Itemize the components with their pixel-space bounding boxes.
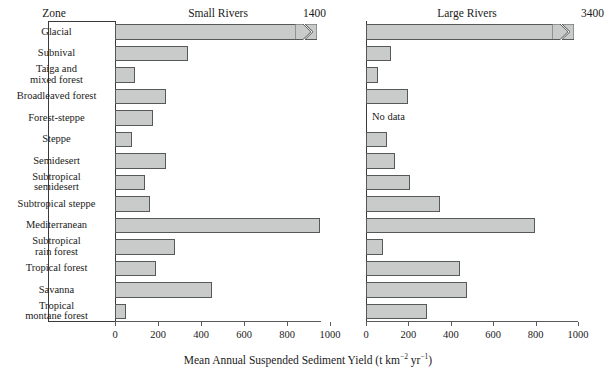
bar-13 [115, 282, 212, 298]
x-tick [408, 322, 409, 326]
zone-label-5: Forest-steppe [0, 107, 113, 129]
bar-10 [366, 218, 535, 234]
bar-4 [366, 89, 408, 105]
zone-label-1: Glacial [0, 21, 113, 43]
x-tick [244, 322, 245, 326]
zone-label-line: Semidesert [33, 156, 80, 167]
bar-segment [366, 24, 552, 40]
x-tick-label: 1000 [558, 329, 598, 340]
panel-large-rivers: No data02004006008001000 [366, 21, 578, 322]
x-tick [115, 322, 116, 326]
x-tick-label: 1000 [310, 329, 350, 340]
axis-break-zigzag-icon [295, 24, 317, 40]
bar-8 [366, 175, 410, 191]
large-rivers-x-axis [366, 321, 578, 322]
x-tick [366, 322, 367, 326]
bar-broken-1 [115, 24, 317, 40]
bar-8 [115, 175, 145, 191]
axis-title-end: ) [428, 354, 432, 366]
bar-6 [115, 132, 132, 148]
bar-14 [115, 304, 126, 320]
bar-9 [115, 196, 150, 212]
bar-11 [115, 239, 175, 255]
x-axis-title: Mean Annual Suspended Sediment Yield (t … [0, 352, 616, 366]
zone-label-line: Subtropical steppe [18, 199, 96, 210]
large-rivers-break-value: 3400 [556, 7, 604, 19]
panel-small-rivers: 02004006008001000 [115, 21, 321, 322]
x-tick [287, 322, 288, 326]
zone-label-line: Steppe [42, 134, 71, 145]
axis-title-exponent-1: −2 [400, 352, 408, 361]
x-tick [201, 322, 202, 326]
bar-12 [366, 261, 460, 277]
bar-5 [115, 110, 153, 126]
x-tick [158, 322, 159, 326]
bar-14 [366, 304, 427, 320]
x-tick-label: 0 [346, 329, 386, 340]
zone-label-line: Glacial [41, 27, 71, 38]
zone-label-7: Semidesert [0, 150, 113, 172]
x-tick-label: 200 [388, 329, 428, 340]
small-rivers-break-value: 1400 [284, 7, 326, 19]
bar-3 [366, 67, 378, 83]
x-tick-label: 200 [138, 329, 178, 340]
zone-label-6: Steppe [0, 129, 113, 151]
axis-break-zigzag-icon [552, 24, 574, 40]
axis-title-main: Mean Annual Suspended Sediment Yield (t … [184, 354, 400, 366]
zone-label-line: mixed forest [30, 75, 83, 86]
bar-13 [366, 282, 467, 298]
x-tick [451, 322, 452, 326]
zone-column-header: Zone [0, 7, 108, 19]
x-tick-label: 800 [267, 329, 307, 340]
bar-2 [366, 46, 391, 62]
zone-label-12: Tropical forest [0, 258, 113, 280]
zone-label-line: Forest-steppe [28, 113, 85, 124]
zone-label-line: rain forest [32, 247, 80, 258]
x-tick [536, 322, 537, 326]
zone-label-10: Mediterranean [0, 215, 113, 237]
bar-segment [115, 24, 295, 40]
sediment-yield-chart: Zone Small Rivers 1400 Large Rivers 3400… [0, 0, 616, 376]
zone-label-line: Savanna [39, 285, 75, 296]
zone-label-14: Tropicalmontane forest [0, 301, 113, 323]
x-tick-label: 0 [95, 329, 135, 340]
bar-broken-1 [366, 24, 574, 40]
zone-label-9: Subtropical steppe [0, 193, 113, 215]
bar-11 [366, 239, 383, 255]
bar-2 [115, 46, 188, 62]
bar-3 [115, 67, 135, 83]
zone-label-line: Mediterranean [26, 220, 87, 231]
bar-10 [115, 218, 320, 234]
x-tick [493, 322, 494, 326]
zone-label-line: semidesert [32, 182, 80, 193]
x-tick-label: 600 [224, 329, 264, 340]
x-tick [330, 322, 331, 326]
zone-label-line: Tropical forest [26, 263, 88, 274]
bar-12 [115, 261, 156, 277]
bar-4 [115, 89, 166, 105]
small-rivers-x-axis [115, 321, 321, 322]
zone-label-column: GlacialSubnivalTaiga andmixed forestBroa… [0, 21, 115, 322]
bar-9 [366, 196, 440, 212]
bar-7 [115, 153, 166, 169]
zone-label-line: Broadleaved forest [17, 91, 97, 102]
axis-title-mid: yr [408, 354, 420, 366]
zone-label-4: Broadleaved forest [0, 86, 113, 108]
zone-label-2: Subnival [0, 43, 113, 65]
zone-label-line: Subnival [38, 48, 75, 59]
zone-label-11: Subtropicalrain forest [0, 236, 113, 258]
x-tick-label: 400 [431, 329, 471, 340]
x-tick-label: 400 [181, 329, 221, 340]
no-data-label: No data [372, 111, 405, 122]
zone-label-3: Taiga andmixed forest [0, 64, 113, 86]
bar-6 [366, 132, 387, 148]
zone-label-line: montane forest [25, 311, 88, 322]
zone-label-13: Savanna [0, 279, 113, 301]
x-tick-label: 600 [473, 329, 513, 340]
zone-label-8: Subtropicalsemidesert [0, 172, 113, 194]
bar-7 [366, 153, 395, 169]
large-rivers-panel-title: Large Rivers [372, 7, 562, 19]
x-tick [578, 322, 579, 326]
x-tick-label: 800 [516, 329, 556, 340]
